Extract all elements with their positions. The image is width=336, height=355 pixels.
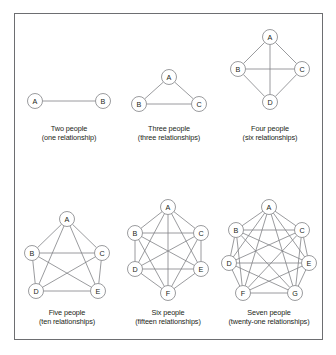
edge-A-C xyxy=(72,224,96,248)
node-C: C xyxy=(95,246,110,261)
node-A: A xyxy=(60,212,75,227)
graph-two-people: AB xyxy=(21,59,117,121)
node-G: G xyxy=(288,286,303,301)
caption-line1: Five people xyxy=(49,308,86,317)
edge-A-B xyxy=(145,82,164,99)
node-D: D xyxy=(128,262,143,277)
graph-three-people: ABC xyxy=(121,59,217,121)
edge-C-E xyxy=(304,237,308,255)
node-A: A xyxy=(263,30,278,45)
node-B: B xyxy=(132,97,147,112)
node-label-B: B xyxy=(30,249,35,258)
node-label-D: D xyxy=(132,265,137,274)
edge-A-C xyxy=(275,42,296,63)
node-label-F: F xyxy=(241,289,246,298)
caption-line1: Six people xyxy=(151,308,184,317)
node-label-F: F xyxy=(166,289,171,298)
edge-group xyxy=(243,42,297,96)
edge-A-B xyxy=(243,42,264,63)
edge-C-G xyxy=(296,237,301,285)
edge-A-C xyxy=(174,212,195,229)
node-label-A: A xyxy=(33,97,38,106)
caption-two-people: Two people(one relationship) xyxy=(42,124,97,142)
caption-three-people: Three people(three relationships) xyxy=(138,124,200,142)
node-label-B: B xyxy=(234,226,239,235)
node-A: A xyxy=(28,94,43,109)
node-B: B xyxy=(96,94,111,109)
graph-canvas-seven-people: ABCDEFG xyxy=(219,195,319,305)
node-label-E: E xyxy=(96,287,101,296)
caption-six-people: Six people(fifteen relationships) xyxy=(135,308,200,326)
node-D: D xyxy=(29,284,44,299)
graph-canvas-four-people: ABCD xyxy=(222,24,318,121)
node-label-B: B xyxy=(137,100,142,109)
edge-group xyxy=(135,212,201,289)
graph-panel-seven-people: ABCDEFGSeven people(twenty-one relations… xyxy=(215,166,323,326)
caption-line1: Four people xyxy=(251,124,289,133)
graph-canvas-five-people: ABCDE xyxy=(19,205,115,305)
node-group: ABCDE xyxy=(25,212,110,299)
edge-A-B xyxy=(242,211,263,225)
caption-four-people: Four people(six relationships) xyxy=(243,124,298,142)
node-C: C xyxy=(295,223,310,238)
edge-A-C xyxy=(275,211,296,225)
node-C: C xyxy=(192,97,207,112)
node-label-C: C xyxy=(299,65,304,74)
node-F: F xyxy=(236,286,251,301)
node-E: E xyxy=(194,262,209,277)
edge-D-F xyxy=(232,270,240,286)
graph-panel-six-people: ABCDEFSix people(fifteen relationships) xyxy=(117,166,219,326)
edge-B-D xyxy=(243,74,265,96)
edge-C-D xyxy=(43,257,96,288)
edge-A-C xyxy=(175,82,194,99)
node-A: A xyxy=(162,70,177,85)
node-label-D: D xyxy=(267,98,272,107)
node-label-A: A xyxy=(267,203,272,212)
graph-six-people: ABCDEF xyxy=(120,195,216,305)
node-label-B: B xyxy=(236,65,241,74)
graph-seven-people: ABCDEFG xyxy=(219,195,319,305)
node-D: D xyxy=(222,256,237,271)
edge-A-D xyxy=(39,226,64,284)
node-E: E xyxy=(302,256,317,271)
node-label-D: D xyxy=(33,287,38,296)
edge-group xyxy=(145,82,194,104)
graph-panel-three-people: ABCThree people(three relationships) xyxy=(119,20,219,142)
edge-group xyxy=(33,224,101,291)
node-label-E: E xyxy=(307,259,312,268)
node-B: B xyxy=(231,62,246,77)
graph-four-people: ABCD xyxy=(222,24,318,121)
edge-C-E xyxy=(99,260,101,283)
node-label-A: A xyxy=(166,203,171,212)
edge-A-B xyxy=(37,224,61,248)
graph-panel-five-people: ABCDEFive people(ten relationships) xyxy=(17,166,117,326)
node-B: B xyxy=(229,223,244,238)
graph-canvas-two-people: AB xyxy=(21,59,117,121)
caption-line1: Two people xyxy=(51,124,87,133)
node-C: C xyxy=(295,62,310,77)
edge-B-F xyxy=(237,237,242,285)
node-label-C: C xyxy=(196,100,201,109)
caption-five-people: Five people(ten relationships) xyxy=(39,308,95,326)
node-label-D: D xyxy=(226,259,231,268)
caption-line1: Three people xyxy=(148,124,190,133)
graph-canvas-six-people: ABCDEF xyxy=(120,195,216,305)
caption-line2: (one relationship) xyxy=(42,133,97,142)
node-F: F xyxy=(161,286,176,301)
caption-line2: (ten relationships) xyxy=(39,317,95,326)
caption-line2: (three relationships) xyxy=(138,133,200,142)
graph-panel-two-people: ABTwo people(one relationship) xyxy=(19,20,119,142)
caption-line2: (fifteen relationships) xyxy=(135,317,200,326)
caption-line1: Seven people xyxy=(247,308,290,317)
caption-line2: (six relationships) xyxy=(243,133,298,142)
figure-frame: ABTwo people(one relationship)ABCThree p… xyxy=(14,13,323,340)
node-E: E xyxy=(91,284,106,299)
node-B: B xyxy=(25,246,40,261)
node-label-B: B xyxy=(101,97,106,106)
node-D: D xyxy=(263,95,278,110)
graph-canvas-three-people: ABC xyxy=(121,59,217,121)
graph-panel-four-people: ABCDFour people(six relationships) xyxy=(219,20,321,142)
edge-A-E xyxy=(70,226,95,284)
node-label-A: A xyxy=(167,73,172,82)
node-label-A: A xyxy=(65,215,70,224)
